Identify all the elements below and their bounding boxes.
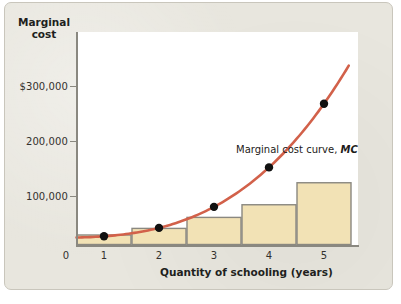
data-point-3 [210,203,218,211]
curve-annotation-italic: MC [341,144,358,155]
y-tick-mark-0 [70,86,77,87]
curve-annotation-text: Marginal cost curve, [236,144,341,155]
data-point-4 [265,163,273,171]
x-tick-label-4: 4 [266,250,272,261]
y-axis-line [76,32,78,247]
bar-4 [242,205,296,245]
x-tick-label-2: 2 [156,250,162,261]
x-axis-line [76,245,359,247]
y-tick-label-0: $300,000 [19,81,68,92]
data-point-1 [100,232,108,240]
data-point-2 [155,224,163,232]
y-tick-mark-1 [70,141,77,142]
data-point-5 [320,100,328,108]
y-tick-mark-2 [70,196,77,197]
x-tick-label-1: 1 [101,250,107,261]
x-tick-label-0: 0 [63,250,69,261]
y-axis-title-line-2: cost [16,28,72,40]
bar-3 [187,217,241,244]
y-tick-label-1: 200,000 [26,136,68,147]
bar-5 [297,183,351,245]
x-axis-title: Quantity of schooling (years) [160,266,333,278]
y-axis-title: Marginal cost [16,16,72,40]
y-axis-title-line-1: Marginal [16,16,72,28]
curve-annotation-label: Marginal cost curve, MC [236,144,358,155]
x-tick-label-5: 5 [321,250,327,261]
y-tick-label-2: 100,000 [26,191,68,202]
x-tick-label-3: 3 [211,250,217,261]
figure-container: $300,000200,000100,000 012345 Marginal c… [0,0,401,304]
